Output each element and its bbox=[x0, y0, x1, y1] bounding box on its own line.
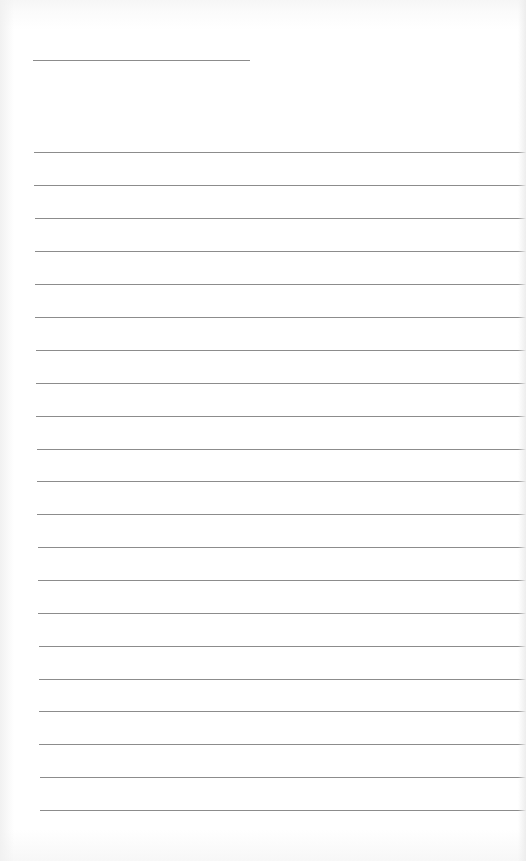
ruled-line-16 bbox=[39, 646, 526, 647]
ruled-line-10 bbox=[37, 449, 526, 450]
ruled-line-1 bbox=[34, 152, 526, 153]
ruled-line-13 bbox=[38, 547, 526, 548]
ruled-line-8 bbox=[36, 383, 526, 384]
ruled-line-7 bbox=[36, 350, 526, 351]
ruled-line-17 bbox=[39, 679, 526, 680]
ruled-line-19 bbox=[39, 744, 526, 745]
ruled-line-2 bbox=[34, 185, 526, 186]
ruled-line-3 bbox=[35, 218, 526, 219]
ruled-line-12 bbox=[37, 514, 526, 515]
title-line bbox=[33, 60, 250, 61]
ruled-line-11 bbox=[37, 481, 526, 482]
ruled-line-20 bbox=[40, 777, 526, 778]
ruled-line-5 bbox=[35, 284, 526, 285]
ruled-line-18 bbox=[39, 711, 526, 712]
ruled-line-15 bbox=[38, 613, 526, 614]
ruled-line-21 bbox=[40, 810, 526, 811]
ruled-line-14 bbox=[38, 580, 526, 581]
ruled-line-9 bbox=[36, 416, 526, 417]
ruled-line-6 bbox=[35, 317, 526, 318]
ruled-line-4 bbox=[35, 251, 526, 252]
lined-paper-page bbox=[0, 0, 526, 861]
